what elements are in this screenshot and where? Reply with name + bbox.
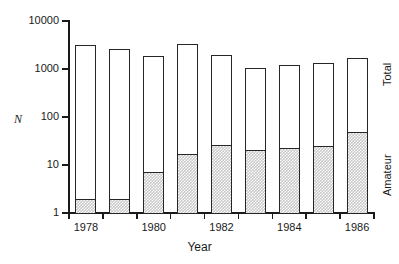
bar-segment-amateur (280, 148, 299, 213)
bar-total (245, 68, 266, 214)
bar-total (279, 65, 300, 214)
x-tick-mark (373, 213, 375, 219)
y-tick-mark (62, 116, 68, 118)
x-tick-mark (102, 213, 104, 219)
chart-figure: 100001000100101 19781980198219841986 N Y… (0, 0, 399, 264)
bar-total (313, 63, 334, 214)
y-tick-label: 10 (0, 159, 59, 170)
x-tick-label: 1978 (74, 221, 98, 233)
y-tick-mark (62, 164, 68, 166)
bar-total (109, 49, 130, 214)
bar-total (211, 55, 232, 214)
series-label-total: Total (381, 63, 393, 86)
y-tick-label: 1000 (0, 63, 59, 74)
x-tick-mark (170, 213, 172, 219)
x-tick-label: 1986 (345, 221, 369, 233)
x-tick-mark (305, 213, 307, 219)
x-tick-label: 1982 (209, 221, 233, 233)
plot-area (69, 21, 374, 213)
x-axis-title: Year (0, 240, 399, 254)
x-tick-mark (238, 213, 240, 219)
bar-total (347, 58, 368, 214)
x-tick-mark (68, 213, 70, 219)
bar-total (143, 56, 164, 214)
y-axis-title: N (14, 112, 22, 127)
bar-segment-amateur (144, 172, 163, 213)
y-tick-mark (62, 20, 68, 22)
x-tick-mark (339, 213, 341, 219)
y-tick-label-wrap: 100 (0, 111, 59, 122)
bar-total (177, 44, 198, 214)
y-tick-label-wrap: 10 (0, 159, 59, 170)
y-tick-mark (62, 212, 68, 214)
y-tick-label: 100 (0, 111, 59, 122)
x-tick-label: 1984 (277, 221, 301, 233)
bar-segment-amateur (246, 150, 265, 213)
x-tick-mark (204, 213, 206, 219)
x-tick-label: 1980 (141, 221, 165, 233)
bar-segment-amateur (178, 154, 197, 213)
y-tick-mark (62, 68, 68, 70)
bar-total (75, 45, 96, 214)
y-tick-label-wrap: 1000 (0, 63, 59, 74)
bar-segment-amateur (212, 145, 231, 213)
x-tick-mark (136, 213, 138, 219)
bar-segment-amateur (76, 199, 95, 213)
y-tick-label: 10000 (0, 15, 59, 26)
series-label-amateur: Amateur (381, 154, 393, 196)
y-tick-label-wrap: 10000 (0, 15, 59, 26)
x-tick-mark (272, 213, 274, 219)
y-tick-label-wrap: 1 (0, 207, 59, 218)
y-tick-label: 1 (0, 207, 59, 218)
bar-segment-amateur (314, 146, 333, 213)
bar-segment-amateur (348, 132, 367, 213)
bar-segment-amateur (110, 199, 129, 213)
